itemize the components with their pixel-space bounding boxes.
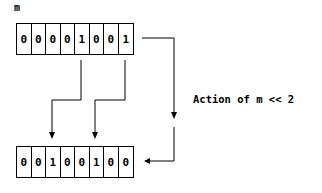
shift-caption: Action of m << 2 xyxy=(193,93,294,105)
shift-arrow-bit4 xyxy=(52,60,81,132)
arrowhead-down-icon xyxy=(49,132,55,139)
arrowhead-left-icon xyxy=(144,158,150,164)
action-arrow-bottom xyxy=(150,127,174,161)
shift-arrow-bit7 xyxy=(95,60,125,132)
arrowhead-down-icon xyxy=(92,132,98,139)
action-arrow-top xyxy=(142,38,174,112)
arrowhead-down-icon xyxy=(171,112,177,119)
